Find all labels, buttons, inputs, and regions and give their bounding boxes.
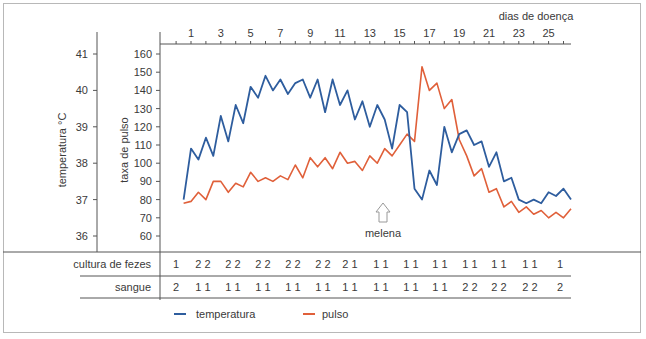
table-cell: 2 2 — [225, 258, 240, 270]
up-arrow-icon — [376, 203, 390, 222]
top-axis-title: dias de doença — [499, 10, 574, 22]
fever-chart: dias de doença 414039383736 temperatura … — [0, 0, 646, 339]
table-cell: 1 1 — [403, 281, 418, 293]
pulse-tick-label: 90 — [140, 175, 152, 187]
pulse-tick-label: 60 — [140, 230, 152, 242]
table-cell: 1 1 — [373, 281, 388, 293]
pulse-tick-label: 150 — [134, 66, 152, 78]
table-cell: 1 1 — [432, 258, 447, 270]
day-tick-label: 17 — [423, 27, 435, 39]
legend-temperature-label: temperatura — [196, 308, 256, 320]
table-cell: 1 1 — [373, 258, 388, 270]
temperature-tick-label: 41 — [76, 48, 88, 60]
day-tick-label: 1 — [188, 27, 194, 39]
day-tick-label: 3 — [218, 27, 224, 39]
table-cell: 2 — [557, 281, 563, 293]
table-cell: 1 1 — [432, 281, 447, 293]
temperature-axis-ticks: 414039383736 — [76, 48, 97, 242]
table-cell: 1 1 — [342, 281, 357, 293]
pulse-tick-label: 130 — [134, 103, 152, 115]
pulse-tick-label: 140 — [134, 84, 152, 96]
table-cell: 1 1 — [522, 258, 537, 270]
table-cell: 2 — [173, 281, 179, 293]
pulse-series-line — [184, 67, 571, 218]
table-cell: 1 1 — [462, 258, 477, 270]
table-cell: 2 2 — [462, 281, 477, 293]
table-cell: 1 1 — [285, 281, 300, 293]
temperature-tick-label: 39 — [76, 121, 88, 133]
temperature-tick-label: 37 — [76, 194, 88, 206]
day-tick-label: 7 — [277, 27, 283, 39]
table-cell: 2 2 — [522, 281, 537, 293]
table-cell: 1 1 — [403, 258, 418, 270]
table-cell: 1 1 — [315, 281, 330, 293]
temperature-tick-label: 38 — [76, 157, 88, 169]
day-tick-label: 5 — [248, 27, 254, 39]
table-cell: 1 1 — [195, 281, 210, 293]
pulse-tick-label: 70 — [140, 212, 152, 224]
pulse-tick-label: 100 — [134, 157, 152, 169]
table-cell: 2 2 — [285, 258, 300, 270]
table-cell: 1 1 — [225, 281, 240, 293]
day-tick-label: 25 — [542, 27, 554, 39]
temperature-tick-label: 36 — [76, 230, 88, 242]
table-cell: 1 — [173, 258, 179, 270]
day-tick-label: 13 — [364, 27, 376, 39]
table-cell: 2 1 — [342, 258, 357, 270]
pulse-tick-label: 160 — [134, 48, 152, 60]
temperature-series-line — [184, 76, 571, 203]
day-tick-label: 11 — [334, 27, 345, 39]
pulse-axis-title: taxa de pulso — [118, 117, 130, 182]
table-cell: 2 2 — [491, 281, 506, 293]
pulse-tick-label: 120 — [134, 121, 152, 133]
table-cell: 1 — [557, 258, 563, 270]
table-row-label-blood: sangue — [115, 281, 151, 293]
day-axis-ticks: 135791113151719212325 — [176, 27, 563, 44]
melena-annotation: melena — [365, 203, 402, 239]
pulse-tick-label: 80 — [140, 194, 152, 206]
table-cell: 2 2 — [255, 258, 270, 270]
table-cell: 1 1 — [255, 281, 270, 293]
day-tick-label: 9 — [307, 27, 313, 39]
table-row-label-stool-culture: cultura de fezes — [73, 258, 151, 270]
melena-label: melena — [365, 227, 402, 239]
legend: temperatura pulso — [174, 308, 348, 320]
temperature-axis-title: temperatura °C — [56, 113, 68, 188]
pulse-axis-ticks: 16015014013012011010090807060 — [134, 48, 160, 242]
table-cell: 2 2 — [195, 258, 210, 270]
table-cell: 1 1 — [491, 258, 506, 270]
table-cell: 2 2 — [315, 258, 330, 270]
day-tick-label: 21 — [483, 27, 495, 39]
day-tick-label: 23 — [513, 27, 525, 39]
day-tick-label: 19 — [453, 27, 465, 39]
pulse-tick-label: 110 — [134, 139, 152, 151]
temperature-tick-label: 40 — [76, 84, 88, 96]
day-tick-label: 15 — [393, 27, 405, 39]
legend-pulse-label: pulso — [322, 308, 348, 320]
